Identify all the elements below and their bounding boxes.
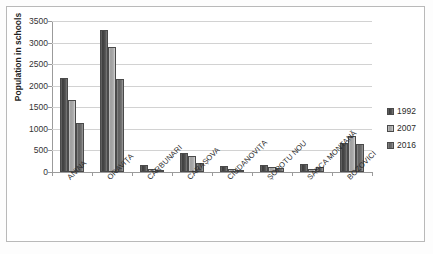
y-tick-label-2500: 2500: [4, 60, 48, 69]
legend-label: 1992: [397, 107, 416, 116]
y-axis-tick-labels: 0500100015002000250030003500: [0, 21, 48, 172]
x-tick-mark: [292, 172, 293, 176]
bar-1992-CIUDANOVIȚA: [220, 166, 228, 172]
bar-group: [100, 21, 124, 172]
legend-swatch-icon: [387, 108, 394, 115]
y-tick-label-2000: 2000: [4, 82, 48, 91]
legend-item-2007: 2007: [387, 120, 431, 137]
x-tick-mark: [372, 172, 373, 176]
bar-1992-CARAȘOVA: [180, 153, 188, 172]
bar-1992-SASCA MONTANĂ: [300, 164, 308, 172]
bar-group: [60, 21, 84, 172]
y-tick-label-500: 500: [4, 146, 48, 155]
legend-label: 2016: [397, 141, 416, 150]
y-tick-label-1000: 1000: [4, 125, 48, 134]
bar-1992-ANINA: [60, 78, 68, 172]
bar-1992-ȘOPOTU NOU: [260, 165, 268, 172]
legend-item-1992: 1992: [387, 103, 431, 120]
x-tick-mark: [132, 172, 133, 176]
x-tick-mark: [332, 172, 333, 176]
chart-figure: Population in schools 050010001500200025…: [0, 0, 433, 254]
legend-item-2016: 2016: [387, 137, 431, 154]
x-tick-mark: [52, 172, 53, 176]
y-tick-label-3500: 3500: [4, 17, 48, 26]
bar-2007-ANINA: [68, 100, 76, 172]
y-tick-label-0: 0: [4, 168, 48, 177]
x-tick-mark: [92, 172, 93, 176]
chart-legend: 199220072016: [387, 103, 431, 154]
bar-group: [140, 21, 164, 172]
y-tick-label-3000: 3000: [4, 39, 48, 48]
x-tick-mark: [172, 172, 173, 176]
x-tick-mark: [252, 172, 253, 176]
bar-1992-ORAVIȚA: [100, 30, 108, 172]
y-tick-label-1500: 1500: [4, 103, 48, 112]
legend-label: 2007: [397, 124, 416, 133]
legend-swatch-icon: [387, 125, 394, 132]
bar-group: [220, 21, 244, 172]
legend-swatch-icon: [387, 142, 394, 149]
bar-2007-ORAVIȚA: [108, 47, 116, 172]
bar-1992-CĂRBUNARI: [140, 165, 148, 172]
x-tick-mark: [212, 172, 213, 176]
